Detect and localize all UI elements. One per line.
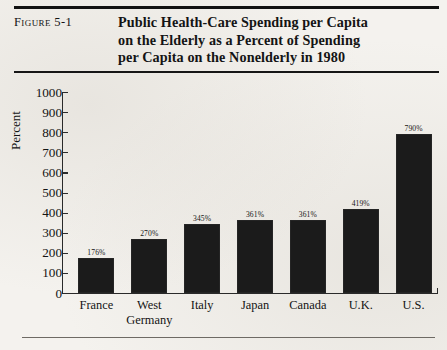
bar-value-label: 361% <box>278 210 338 219</box>
bar-value-label: 176% <box>66 248 126 257</box>
y-axis-tick-label: 900 <box>16 106 62 119</box>
bar <box>343 209 379 293</box>
y-axis-tick-label: 300 <box>16 226 62 239</box>
y-axis-tick-label: 400 <box>16 206 62 219</box>
y-axis-tick <box>62 293 68 294</box>
bar <box>290 220 326 293</box>
y-axis-tick <box>62 132 68 133</box>
bar <box>78 258 114 293</box>
figure-container: Figure 5-1 Public Health-Care Spending p… <box>0 0 447 350</box>
y-axis-tick-label: 1000 <box>16 86 62 99</box>
y-axis-tick-label: 100 <box>16 266 62 279</box>
y-axis-tick <box>62 112 68 113</box>
bar <box>131 239 167 293</box>
bar-value-label: 270% <box>119 229 179 238</box>
y-axis-tick-label: 200 <box>16 246 62 259</box>
y-axis-tick-label: 500 <box>16 186 62 199</box>
y-axis-tick <box>62 152 68 153</box>
bar <box>184 224 220 293</box>
bar <box>237 220 273 293</box>
bottom-rule <box>22 337 435 338</box>
bar-value-label: 345% <box>172 214 232 223</box>
y-axis-tick-label: 700 <box>16 146 62 159</box>
y-axis-tick-label: 800 <box>16 126 62 139</box>
bar-value-label: 419% <box>331 199 391 208</box>
y-axis-tick <box>62 172 68 173</box>
bar-chart: Percent 01002003004005006007008009001000… <box>0 0 447 350</box>
y-axis-tick-label: 600 <box>16 166 62 179</box>
bar-value-label: 790% <box>384 124 444 133</box>
y-axis-tick-label: 0 <box>16 287 62 300</box>
x-axis-category-label: U.S. <box>374 298 447 313</box>
y-axis-tick <box>62 273 68 274</box>
x-axis-end-tick <box>437 288 438 294</box>
y-axis-tick <box>62 92 68 93</box>
y-axis-tick <box>62 193 68 194</box>
bar <box>396 134 432 293</box>
y-axis-tick <box>62 233 68 234</box>
bar-value-label: 361% <box>225 210 285 219</box>
y-axis-tick <box>62 213 68 214</box>
